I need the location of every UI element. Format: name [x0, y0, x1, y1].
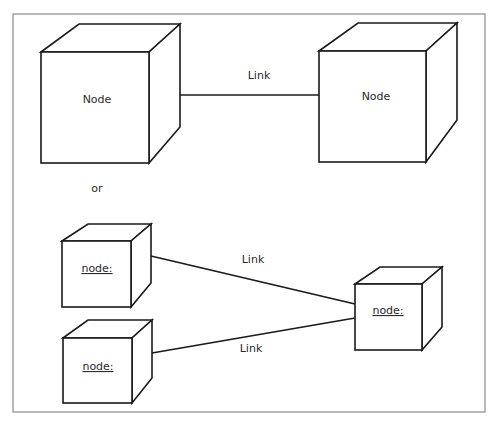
or-separator-label: or	[91, 182, 103, 195]
node-label-small-right: node:	[372, 304, 403, 317]
node-cube-small-top-left: node:	[62, 224, 151, 307]
node-cube-small-right: node:	[355, 267, 442, 350]
cube-front-face	[355, 284, 422, 350]
node-label-right: Node	[362, 90, 391, 103]
cube-front-face	[319, 51, 426, 162]
cube-front-face	[41, 52, 149, 163]
node-label-small-top-left: node:	[81, 262, 112, 275]
diagram-canvas: Link Node Node or Link Link node: node:	[0, 0, 499, 423]
node-cube-right: Node	[319, 23, 457, 162]
node-label-left: Node	[83, 93, 112, 106]
link-label-top: Link	[248, 69, 271, 82]
link-label-bottom-top: Link	[242, 253, 265, 266]
node-cube-left: Node	[41, 24, 180, 163]
node-label-small-bottom-left: node:	[82, 360, 113, 373]
node-cube-small-bottom-left: node:	[63, 320, 152, 403]
link-label-bottom-bottom: Link	[240, 342, 263, 355]
